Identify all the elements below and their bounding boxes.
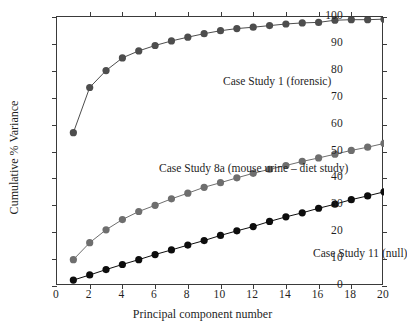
data-point-marker xyxy=(168,195,175,202)
data-point-marker xyxy=(299,209,306,216)
data-point-marker xyxy=(348,147,355,154)
x-tick-label: 0 xyxy=(41,289,71,301)
data-point-marker xyxy=(364,17,371,23)
data-point-marker xyxy=(152,42,159,49)
x-tick-label: 20 xyxy=(368,289,398,301)
data-point-marker xyxy=(217,232,224,239)
data-point-marker xyxy=(119,216,126,223)
data-point-marker xyxy=(364,192,371,199)
data-point-marker xyxy=(86,239,93,246)
data-point-marker xyxy=(201,184,208,191)
x-tick-mark-top xyxy=(90,12,91,17)
data-point-marker xyxy=(70,256,77,263)
data-point-marker xyxy=(86,84,93,91)
data-point-marker xyxy=(348,17,355,23)
data-point-marker xyxy=(119,261,126,268)
y-tick-mark-right xyxy=(382,286,387,287)
data-point-marker xyxy=(380,188,384,195)
y-tick-mark-right xyxy=(382,178,387,179)
y-tick-mark xyxy=(52,178,57,179)
data-point-marker xyxy=(233,174,240,181)
data-point-marker xyxy=(168,246,175,253)
series-annotation-case-study-1: Case Study 1 (forensic) xyxy=(223,75,331,87)
data-point-marker xyxy=(184,190,191,197)
y-axis-title: Cumulative % Variance xyxy=(7,58,22,258)
x-tick-label: 8 xyxy=(172,289,202,301)
y-tick-mark-right xyxy=(382,98,387,99)
x-tick-mark-top xyxy=(253,12,254,17)
data-point-marker xyxy=(184,34,191,41)
y-tick-label: 20 xyxy=(297,225,343,237)
y-tick-label: 60 xyxy=(297,118,343,130)
data-point-marker xyxy=(217,27,224,34)
y-tick-mark xyxy=(52,152,57,153)
y-tick-mark xyxy=(52,98,57,99)
y-tick-label: 40 xyxy=(297,171,343,183)
x-tick-label: 12 xyxy=(237,289,267,301)
data-point-marker xyxy=(233,25,240,32)
data-point-marker xyxy=(380,140,384,147)
x-tick-label: 4 xyxy=(106,289,136,301)
data-point-marker xyxy=(250,24,257,31)
data-point-marker xyxy=(266,22,273,29)
data-point-marker xyxy=(282,20,289,27)
y-tick-mark xyxy=(52,259,57,260)
x-tick-label: 6 xyxy=(139,289,169,301)
x-tick-label: 10 xyxy=(205,289,235,301)
data-point-marker xyxy=(250,223,257,230)
y-tick-mark-right xyxy=(382,152,387,153)
y-tick-mark-right xyxy=(382,259,387,260)
data-point-marker xyxy=(184,242,191,249)
y-tick-mark xyxy=(52,71,57,72)
x-tick-mark-top xyxy=(286,12,287,17)
x-tick-mark-top xyxy=(221,12,222,17)
data-point-marker xyxy=(102,226,109,233)
y-tick-mark xyxy=(52,205,57,206)
data-point-marker xyxy=(102,266,109,273)
data-point-marker xyxy=(364,144,371,151)
y-tick-label: 30 xyxy=(297,198,343,210)
data-point-marker xyxy=(135,208,142,215)
data-point-marker xyxy=(217,179,224,186)
data-point-marker xyxy=(152,202,159,209)
data-point-marker xyxy=(86,271,93,278)
x-tick-label: 16 xyxy=(303,289,333,301)
x-tick-mark-top xyxy=(351,12,352,17)
y-tick-label: 80 xyxy=(297,64,343,76)
y-tick-mark xyxy=(52,232,57,233)
y-tick-mark-right xyxy=(382,232,387,233)
y-tick-label: 90 xyxy=(297,37,343,49)
y-tick-label: 100 xyxy=(297,10,343,22)
y-tick-mark-right xyxy=(382,125,387,126)
data-point-marker xyxy=(135,47,142,54)
data-point-marker xyxy=(135,256,142,263)
data-point-marker xyxy=(119,54,126,61)
x-tick-label: 2 xyxy=(74,289,104,301)
y-tick-label: 50 xyxy=(297,145,343,157)
y-tick-mark xyxy=(52,125,57,126)
x-tick-mark-top xyxy=(122,12,123,17)
y-tick-mark-right xyxy=(382,17,387,18)
y-tick-label: 10 xyxy=(297,252,343,264)
data-point-marker xyxy=(152,251,159,258)
y-tick-mark xyxy=(52,17,57,18)
x-tick-mark-top xyxy=(155,12,156,17)
y-tick-mark-right xyxy=(382,71,387,72)
data-point-marker xyxy=(201,30,208,37)
data-point-marker xyxy=(70,276,77,283)
y-tick-mark-right xyxy=(382,44,387,45)
y-tick-mark xyxy=(52,44,57,45)
x-axis-title: Principal component number xyxy=(0,307,405,322)
data-point-marker xyxy=(348,196,355,203)
x-tick-label: 14 xyxy=(270,289,300,301)
data-point-marker xyxy=(70,129,77,136)
data-point-marker xyxy=(201,237,208,244)
data-point-marker xyxy=(102,67,109,74)
x-tick-label: 18 xyxy=(335,289,365,301)
data-point-marker xyxy=(266,218,273,225)
x-tick-mark-top xyxy=(188,12,189,17)
y-tick-mark-right xyxy=(382,205,387,206)
y-tick-label: 70 xyxy=(297,91,343,103)
data-point-marker xyxy=(233,227,240,234)
